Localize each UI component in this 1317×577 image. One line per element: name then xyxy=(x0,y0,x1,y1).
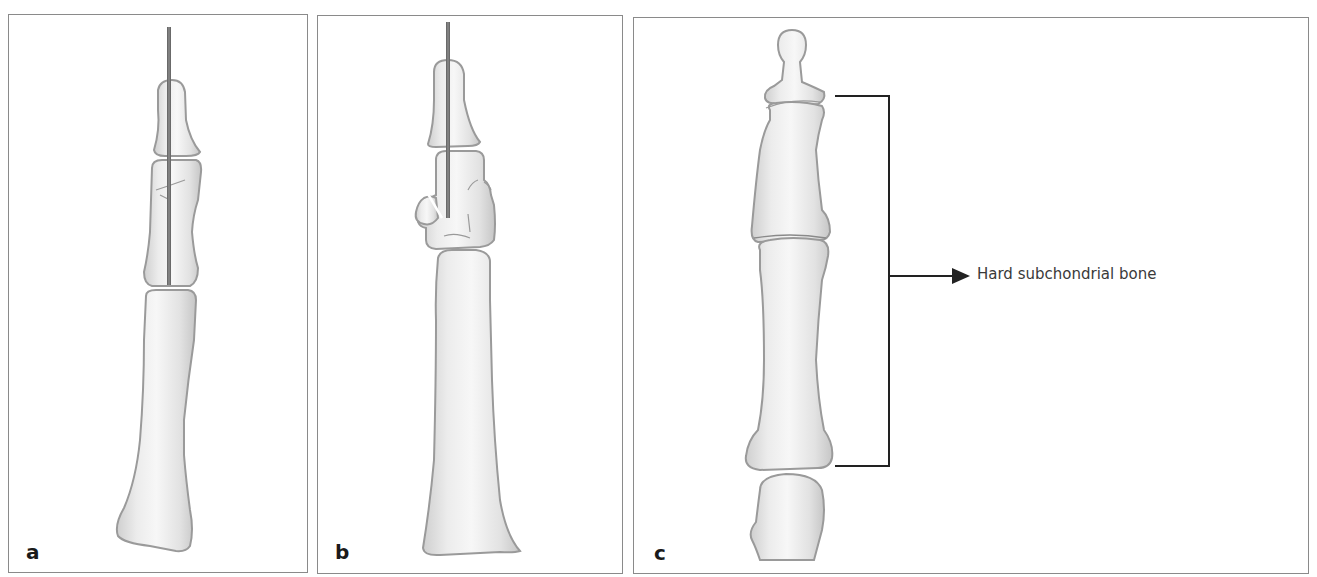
panel-b: b xyxy=(317,15,623,574)
annotation-label: Hard subchondrial bone xyxy=(977,265,1156,283)
panel-letter-b: b xyxy=(335,540,349,564)
panel-a: a xyxy=(8,14,308,573)
panel-letter-a: a xyxy=(26,540,40,564)
panel-c: c xyxy=(633,17,1309,574)
panel-letter-c: c xyxy=(654,541,666,565)
